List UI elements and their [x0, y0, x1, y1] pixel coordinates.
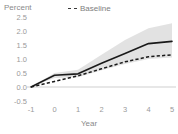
x-tick-label: 3 [115, 105, 135, 114]
x-tick-label: -1 [21, 105, 41, 114]
x-tick-label: 2 [92, 105, 112, 114]
confidence-band [31, 23, 172, 87]
x-axis-tick-labels: -1012345 [0, 105, 178, 117]
x-tick-label: 5 [162, 105, 178, 114]
x-tick-label: 0 [45, 105, 65, 114]
x-tick-label: 1 [68, 105, 88, 114]
x-axis-title: Year [0, 119, 178, 128]
chart-container: Percent Baseline -0.50.00.51.01.52.02.5 … [0, 0, 178, 134]
x-tick-label: 4 [139, 105, 159, 114]
